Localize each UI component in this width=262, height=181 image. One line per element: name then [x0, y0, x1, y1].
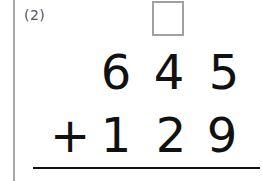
sum-line: [33, 167, 260, 169]
digit-ones: 5: [207, 48, 241, 96]
digit-hundreds: 6: [99, 48, 133, 96]
margin-rule: [13, 0, 15, 181]
problem-number: (2): [24, 7, 45, 23]
digit-tens: 2: [154, 111, 188, 159]
digit-ones: 9: [205, 111, 239, 159]
digit-tens: 4: [152, 48, 186, 96]
digit-hundreds: 1: [99, 111, 133, 159]
plus-operator: +: [50, 111, 84, 159]
answer-box[interactable]: [152, 1, 184, 36]
